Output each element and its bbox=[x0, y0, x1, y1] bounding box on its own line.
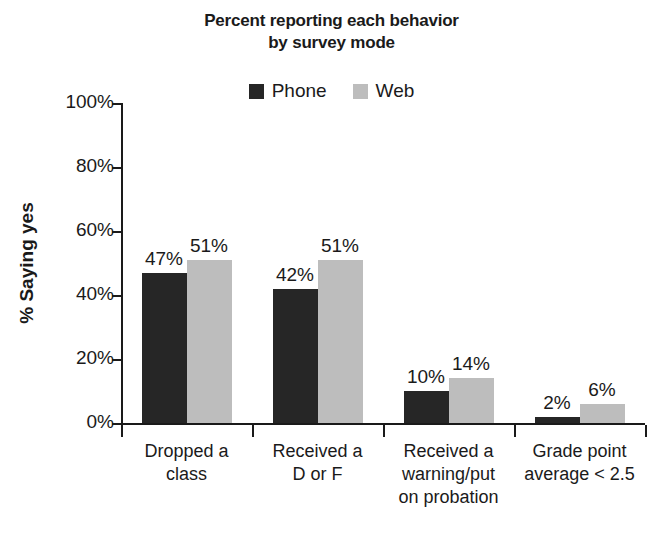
bar-group: 10%14% bbox=[383, 103, 514, 423]
legend-label-web: Web bbox=[376, 80, 415, 102]
y-axis-tick-label: 40% bbox=[76, 283, 114, 305]
legend-label-phone: Phone bbox=[272, 80, 327, 102]
legend-item-web: Web bbox=[353, 80, 415, 102]
bar-value-label: 47% bbox=[145, 248, 183, 270]
bar-web[interactable]: 51% bbox=[187, 260, 232, 423]
bar-value-label: 14% bbox=[452, 353, 490, 375]
y-axis-tick-label: 20% bbox=[76, 347, 114, 369]
bar-web[interactable]: 6% bbox=[580, 404, 625, 423]
x-axis-tick-mark bbox=[121, 425, 123, 437]
plot-area: 0%20%40%60%80%100% 47%51%42%51%10%14%2%6… bbox=[121, 103, 645, 423]
x-axis-tick-mark bbox=[645, 425, 647, 437]
chart-title-line-1: Percent reporting each behavior bbox=[0, 10, 663, 32]
legend-item-phone: Phone bbox=[249, 80, 327, 102]
chart-title-line-2: by survey mode bbox=[0, 32, 663, 54]
bar-value-label: 42% bbox=[276, 264, 314, 286]
bar-group: 42%51% bbox=[252, 103, 383, 423]
bar-value-label: 51% bbox=[190, 235, 228, 257]
chart-title: Percent reporting each behavior by surve… bbox=[0, 10, 663, 54]
bar-phone[interactable]: 10% bbox=[404, 391, 449, 423]
legend-swatch-phone-icon bbox=[249, 84, 264, 99]
x-axis-category-label: Received a D or F bbox=[252, 440, 383, 486]
bar-value-label: 10% bbox=[407, 366, 445, 388]
y-axis-tick-label: 80% bbox=[76, 155, 114, 177]
bar-group: 2%6% bbox=[514, 103, 645, 423]
x-axis-tick-mark bbox=[252, 425, 254, 437]
y-axis-tick-label: 0% bbox=[87, 411, 114, 433]
x-axis-category-label: Dropped a class bbox=[121, 440, 252, 486]
x-axis-category-label: Grade point average < 2.5 bbox=[514, 440, 645, 486]
bar-phone[interactable]: 42% bbox=[273, 289, 318, 423]
bar-web[interactable]: 14% bbox=[449, 378, 494, 423]
bar-phone[interactable]: 47% bbox=[142, 273, 187, 423]
bar-value-label: 51% bbox=[321, 235, 359, 257]
legend-swatch-web-icon bbox=[353, 84, 368, 99]
bar-group: 47%51% bbox=[121, 103, 252, 423]
x-axis-category-label: Received a warning/put on probation bbox=[383, 440, 514, 509]
bar-value-label: 2% bbox=[543, 392, 570, 414]
x-axis-tick-mark bbox=[514, 425, 516, 437]
bar-value-label: 6% bbox=[588, 379, 615, 401]
x-axis-tick-mark bbox=[383, 425, 385, 437]
y-axis-title: % Saying yes bbox=[14, 103, 40, 423]
y-axis-tick-label: 100% bbox=[65, 91, 114, 113]
bar-web[interactable]: 51% bbox=[318, 260, 363, 423]
bar-phone[interactable]: 2% bbox=[535, 417, 580, 423]
y-axis-tick-label: 60% bbox=[76, 219, 114, 241]
